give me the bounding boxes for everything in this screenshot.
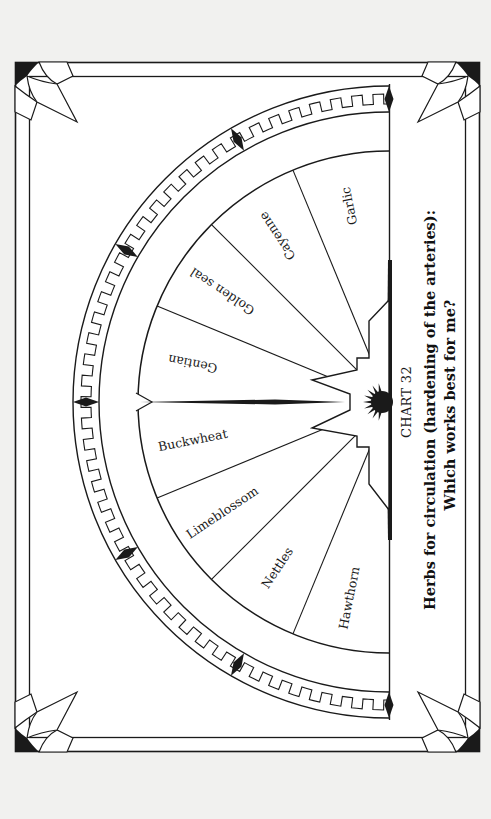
chart-number: CHART 32 (399, 366, 414, 438)
chart-title-line2: Which works best for me? (441, 300, 458, 512)
pendulum-chart: GarlicCayenneGolden sealGentianBuckwheat… (0, 0, 491, 819)
chart-title-line1: Herbs for circulation (hardening of the … (421, 210, 438, 610)
